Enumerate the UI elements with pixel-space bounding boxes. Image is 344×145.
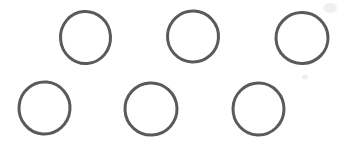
scan-speck-top-right [323, 3, 337, 13]
scan-speck-mid-right [302, 75, 308, 80]
figure-canvas: Six Circles Circle 1Circle 2Circle 3Circ… [0, 0, 344, 145]
circles-figure: Six Circles Circle 1Circle 2Circle 3Circ… [0, 0, 344, 145]
